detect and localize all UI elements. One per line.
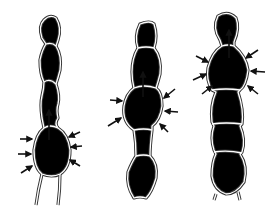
stage-1-tube (34, 16, 70, 205)
press-arrow-icon (70, 160, 80, 166)
press-arrow-icon (164, 89, 175, 98)
stage-3-tube (208, 13, 249, 200)
press-arrow-icon (248, 86, 258, 94)
press-arrow-icon (165, 111, 178, 112)
press-arrow-icon (251, 71, 265, 72)
press-arrow-icon (21, 166, 32, 173)
stage-2-tube (124, 22, 162, 198)
press-arrow-icon (246, 50, 258, 58)
press-arrow-icon (110, 100, 122, 101)
press-arrow-icon (71, 146, 82, 147)
diagram-canvas (0, 0, 280, 215)
press-arrow-icon (196, 56, 208, 62)
press-arrow-icon (108, 118, 121, 126)
press-arrow-icon (193, 74, 206, 80)
press-arrow-icon (160, 124, 168, 132)
press-arrow-icon (69, 132, 80, 137)
